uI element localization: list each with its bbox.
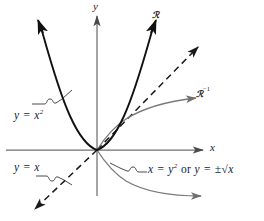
identity-equation-label: y = x [14,162,40,174]
relation-inverse-graph-figure: y x ℛ ℛ−1 y = x2 y = x x = y2 or y = ±√x [0,0,264,221]
y-axis-label: y [93,1,98,12]
parabola-equation-text: y = x [14,109,40,121]
parabola-right-arrow [151,20,156,33]
identity-line-group [35,47,198,209]
inverse-curve-upper-branch [97,98,196,150]
inverse-curve-equation-conjunction: or [178,163,195,175]
parabola-equation-label: y = x2 [14,109,44,121]
identity-line-y-equals-x-lower [35,150,97,209]
inverse-curve-equation-radical: √x [222,163,234,175]
identity-line-y-equals-x [97,47,198,150]
relation-label: ℛ [152,5,159,21]
inverse-relation-label: ℛ−1 [196,84,210,100]
leader-identity-label [36,176,72,185]
relation-parabola-group [0,0,156,150]
inverse-relation-curve-group [97,98,201,196]
inverse-relation-symbol: ℛ [196,89,203,99]
leader-inverse-curve-label [110,163,147,172]
inverse-relation-exponent: −1 [203,85,210,92]
inverse-curve-equation-part1: x = y [148,163,174,175]
parabola-left-arrow [38,20,43,33]
inverse-curve-equation-part3: y = ± [195,163,222,175]
leader-parabola-label [32,90,72,104]
parabola-equation-exponent: 2 [40,108,44,116]
x-axis-label: x [210,142,215,153]
inverse-curve-equation-label: x = y2 or y = ±√x [148,163,234,175]
relation-symbol: ℛ [152,10,159,20]
